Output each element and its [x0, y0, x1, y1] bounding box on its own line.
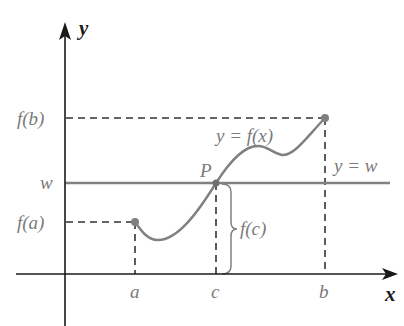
dashed-guides	[66, 118, 325, 274]
point-b	[321, 114, 329, 122]
x-axis-label: x	[384, 282, 396, 306]
label-w: w	[40, 172, 53, 193]
label-curve: y = f(x)	[214, 125, 273, 147]
label-P: P	[199, 160, 212, 181]
label-b: b	[319, 281, 329, 302]
label-a: a	[130, 281, 140, 302]
label-fa: f(a)	[17, 212, 44, 234]
ivt-diagram: y x f(b) w f(a) a c b P y = f(x) y = w f…	[0, 0, 404, 326]
fc-brace	[222, 184, 237, 274]
label-line: y = w	[332, 155, 378, 176]
point-P	[213, 180, 220, 187]
label-fc: f(c)	[240, 218, 266, 240]
y-axis-label: y	[76, 16, 89, 40]
label-fb: f(b)	[17, 108, 44, 130]
label-c: c	[211, 281, 220, 302]
point-a	[131, 218, 139, 226]
